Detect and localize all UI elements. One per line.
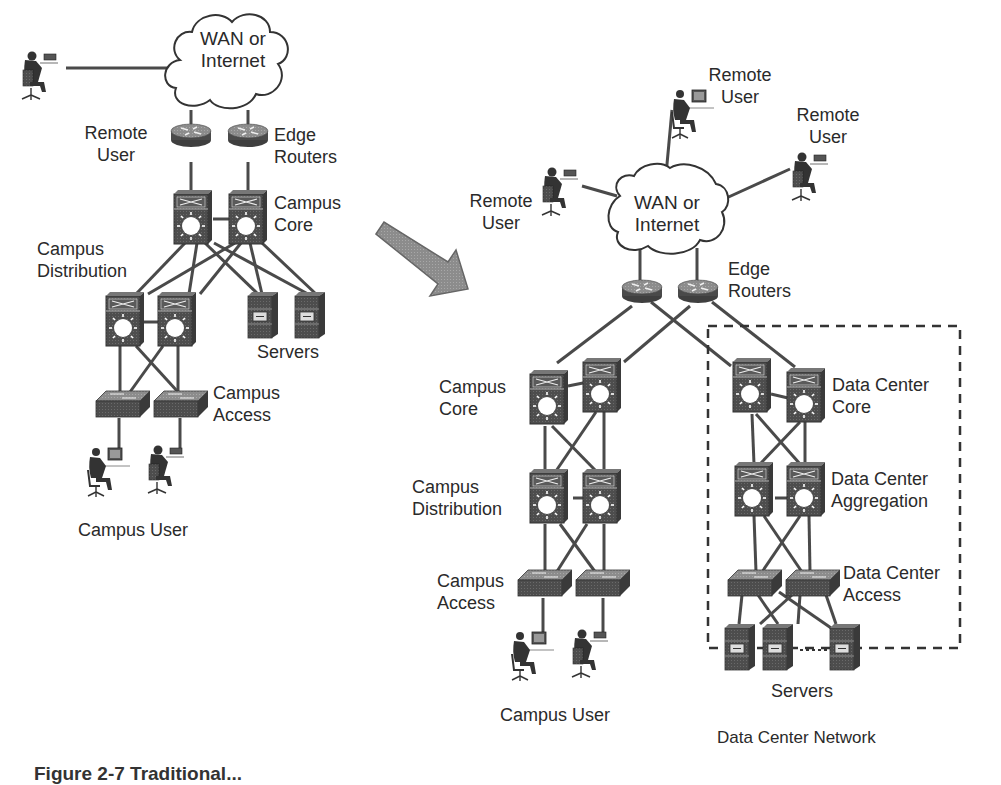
- label-line2: User: [792, 126, 864, 148]
- campus-core-switch-icon: [583, 358, 621, 412]
- label-line2: Distribution: [37, 260, 127, 282]
- label-line2: Distribution: [412, 498, 502, 520]
- remote-user-label-left: Remote User: [76, 122, 156, 166]
- label-line2: Routers: [728, 280, 791, 302]
- dc-core-switch-icon: [787, 368, 825, 422]
- label-line1: Campus: [213, 382, 280, 404]
- label-line1: Remote: [704, 64, 776, 86]
- campus-user-icon: [572, 630, 608, 679]
- cloud-label-line1: WAN or: [188, 28, 278, 50]
- label-line1: Campus: [439, 376, 506, 398]
- label-line1: Campus: [37, 238, 127, 260]
- label-line2: Core: [439, 398, 506, 420]
- transition-arrow-icon: [376, 222, 468, 296]
- label-line2: Access: [843, 584, 940, 606]
- label-line2: Access: [437, 592, 504, 614]
- label-line1: Remote: [76, 122, 156, 144]
- campus-core-switch-icon: [530, 370, 568, 424]
- label-line1: Remote: [466, 190, 536, 212]
- remote-user-label-1: Remote User: [466, 190, 536, 234]
- campus-user-icon: [88, 448, 130, 497]
- label-line1: Data Center: [831, 468, 928, 490]
- label-line1: Campus: [437, 570, 504, 592]
- label-line2: Aggregation: [831, 490, 928, 512]
- label-line2: User: [76, 144, 156, 166]
- dc-aggregation-switch-icon: [787, 462, 825, 516]
- label-line1: Edge: [274, 124, 337, 146]
- wan-cloud-label-right: WAN or Internet: [622, 192, 712, 236]
- campus-access-switch-icon: [154, 391, 208, 417]
- campus-core-label-left: Campus Core: [274, 192, 341, 236]
- servers-label-left: Servers: [257, 341, 319, 363]
- dc-core-label: Data Center Core: [832, 374, 929, 418]
- campus-access-switch-icon: [518, 570, 572, 596]
- label-line2: Access: [213, 404, 280, 426]
- dc-aggregation-label: Data Center Aggregation: [831, 468, 928, 512]
- campus-distribution-switch-icon: [106, 292, 144, 346]
- campus-core-label-right: Campus Core: [439, 376, 506, 420]
- dc-server-icon: [725, 624, 755, 670]
- dc-core-switch-icon: [733, 358, 771, 412]
- cloud-label-line1: WAN or: [622, 192, 712, 214]
- server-icon: [295, 292, 325, 338]
- label-line1: Data Center: [843, 562, 940, 584]
- edge-router-icon: [678, 280, 718, 303]
- dc-server-icon: [763, 624, 793, 670]
- dc-access-switch-icon: [728, 570, 782, 596]
- campus-access-label-left: Campus Access: [213, 382, 280, 426]
- dc-servers-label: Servers: [771, 680, 833, 702]
- campus-distribution-label-right: Campus Distribution: [412, 476, 502, 520]
- wan-cloud-label-left: WAN or Internet: [188, 28, 278, 72]
- campus-user-icon: [512, 632, 554, 681]
- dc-network-label: Data Center Network: [717, 727, 876, 749]
- edge-router-icon: [228, 124, 268, 147]
- campus-distribution-switch-icon: [583, 469, 621, 523]
- campus-user-label-left: Campus User: [78, 519, 188, 541]
- remote-user-label-3: Remote User: [792, 104, 864, 148]
- edge-router-icon: [622, 280, 662, 303]
- cloud-label-line2: Internet: [188, 50, 278, 72]
- edge-routers-label-right: Edge Routers: [728, 258, 791, 302]
- remote-user-icon: [542, 168, 578, 217]
- label-line2: User: [704, 86, 776, 108]
- cloud-label-line2: Internet: [622, 214, 712, 236]
- dc-server-icon: [830, 624, 860, 670]
- label-line1: Remote: [792, 104, 864, 126]
- figure-caption: Figure 2-7 Traditional...: [34, 763, 242, 785]
- remote-user-icon: [792, 153, 828, 202]
- label-line1: Edge: [728, 258, 791, 280]
- campus-distribution-label-left: Campus Distribution: [37, 238, 127, 282]
- remote-user-icon-left: [22, 52, 58, 101]
- label-line2: Core: [832, 396, 929, 418]
- campus-access-label-right: Campus Access: [437, 570, 504, 614]
- label-line2: Core: [274, 214, 341, 236]
- server-icon: [248, 292, 278, 338]
- label-line1: Campus: [274, 192, 341, 214]
- dc-aggregation-switch-icon: [735, 462, 773, 516]
- label-line1: Campus: [412, 476, 502, 498]
- campus-core-switch-icon: [229, 190, 267, 244]
- campus-core-switch-icon: [174, 190, 212, 244]
- campus-access-switch-icon: [576, 570, 630, 596]
- remote-user-label-2: Remote User: [704, 64, 776, 108]
- edge-router-icon: [171, 124, 211, 147]
- dc-access-label: Data Center Access: [843, 562, 940, 606]
- campus-user-label-right: Campus User: [500, 704, 610, 726]
- campus-distribution-switch-icon: [530, 469, 568, 523]
- edge-routers-label-left: Edge Routers: [274, 124, 337, 168]
- label-line2: User: [466, 212, 536, 234]
- campus-distribution-switch-icon: [158, 292, 196, 346]
- label-line2: Routers: [274, 146, 337, 168]
- campus-user-icon: [148, 446, 184, 495]
- dc-access-switch-icon: [786, 570, 840, 596]
- label-line1: Data Center: [832, 374, 929, 396]
- campus-access-switch-icon: [96, 391, 150, 417]
